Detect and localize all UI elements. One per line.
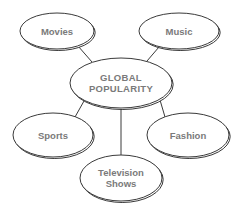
node-fashion-label: Fashion (170, 130, 207, 141)
node-movies: Movies (20, 13, 95, 51)
node-fashion: Fashion (147, 113, 230, 159)
node-sports-label: Sports (38, 130, 68, 141)
node-sports: Sports (13, 113, 94, 159)
node-music-label: Music (166, 26, 193, 37)
node-television-label-line1: Television (98, 167, 144, 178)
edge-global-fashion (160, 100, 165, 117)
center-label-line1: GLOBAL (100, 72, 142, 83)
node-global-popularity: GLOBAL POPULARITY (70, 58, 173, 110)
node-movies-label: Movies (41, 26, 73, 37)
edge-global-sports (75, 101, 84, 117)
edge-global-movies (78, 46, 92, 62)
center-label-line2: POPULARITY (89, 83, 154, 94)
node-television-shows: Television Shows (80, 155, 163, 203)
node-music: Music (139, 13, 220, 51)
node-television-label-line2: Shows (106, 178, 137, 189)
edge-global-music (147, 47, 159, 61)
mind-map-diagram: Movies Music Sports Fashion Television S… (0, 0, 240, 211)
